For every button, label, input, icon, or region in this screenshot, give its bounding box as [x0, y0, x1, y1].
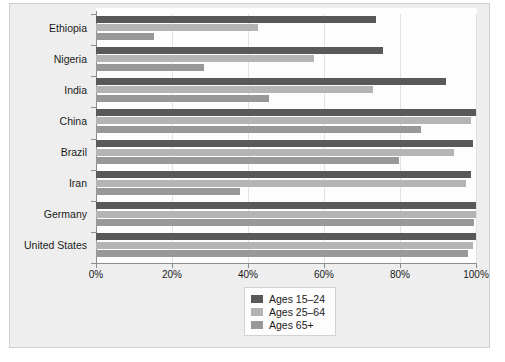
legend-swatch-ages-25-64	[251, 308, 263, 316]
y-axis-label-india: India	[64, 85, 87, 96]
legend-item-label: Ages 25–64	[269, 306, 325, 318]
bar	[96, 242, 473, 249]
legend-item[interactable]: Ages 25–64	[251, 305, 325, 318]
gridline	[476, 14, 477, 263]
y-axis-label-china: China	[60, 116, 87, 127]
bar	[96, 250, 468, 257]
x-axis-label: 60%	[314, 269, 334, 280]
legend-swatch-ages-15-24	[251, 295, 263, 303]
bar	[96, 211, 476, 218]
x-axis-label: 80%	[390, 269, 410, 280]
bar	[96, 78, 446, 85]
y-axis-label-united-states: United States	[24, 240, 87, 251]
legend-item-label: Ages 15–24	[269, 293, 325, 305]
bar	[96, 47, 383, 54]
bar	[96, 33, 154, 40]
bar	[96, 140, 473, 147]
y-axis-label-ethiopia: Ethiopia	[49, 23, 87, 34]
legend-item[interactable]: Ages 65+	[251, 318, 325, 331]
y-axis-label-brazil: Brazil	[61, 147, 87, 158]
bar	[96, 55, 314, 62]
bar	[96, 180, 466, 187]
bar	[96, 109, 476, 116]
bar	[96, 16, 376, 23]
bar	[96, 188, 240, 195]
chart-figure: EthiopiaNigeriaIndiaChinaBrazilIranGerma…	[0, 0, 505, 362]
x-axis-tick	[400, 264, 401, 268]
bar	[96, 126, 421, 133]
bar	[96, 171, 471, 178]
x-axis-tick	[248, 264, 249, 268]
x-axis-tick	[96, 264, 97, 268]
bar	[96, 233, 476, 240]
bar	[96, 219, 474, 226]
bar	[96, 95, 269, 102]
legend-item-label: Ages 65+	[269, 319, 314, 331]
bar	[96, 64, 204, 71]
legend-item[interactable]: Ages 15–24	[251, 292, 325, 305]
x-axis-label: 100%	[463, 269, 489, 280]
x-axis-tick	[172, 264, 173, 268]
x-axis-tick	[324, 264, 325, 268]
bar	[96, 117, 471, 124]
x-axis-label: 20%	[162, 269, 182, 280]
bar	[96, 157, 399, 164]
x-axis-label: 40%	[238, 269, 258, 280]
bar	[96, 86, 373, 93]
x-axis-line	[92, 263, 477, 264]
x-axis-tick	[476, 264, 477, 268]
y-axis-label-germany: Germany	[44, 209, 87, 220]
y-axis-label-nigeria: Nigeria	[54, 54, 87, 65]
chart-legend: Ages 15–24Ages 25–64Ages 65+	[244, 287, 336, 336]
bar	[96, 149, 454, 156]
x-axis-label: 0%	[89, 269, 103, 280]
bar	[96, 24, 258, 31]
legend-swatch-ages-65-plus	[251, 321, 263, 329]
bar	[96, 202, 476, 209]
y-axis-label-iran: Iran	[69, 178, 87, 189]
